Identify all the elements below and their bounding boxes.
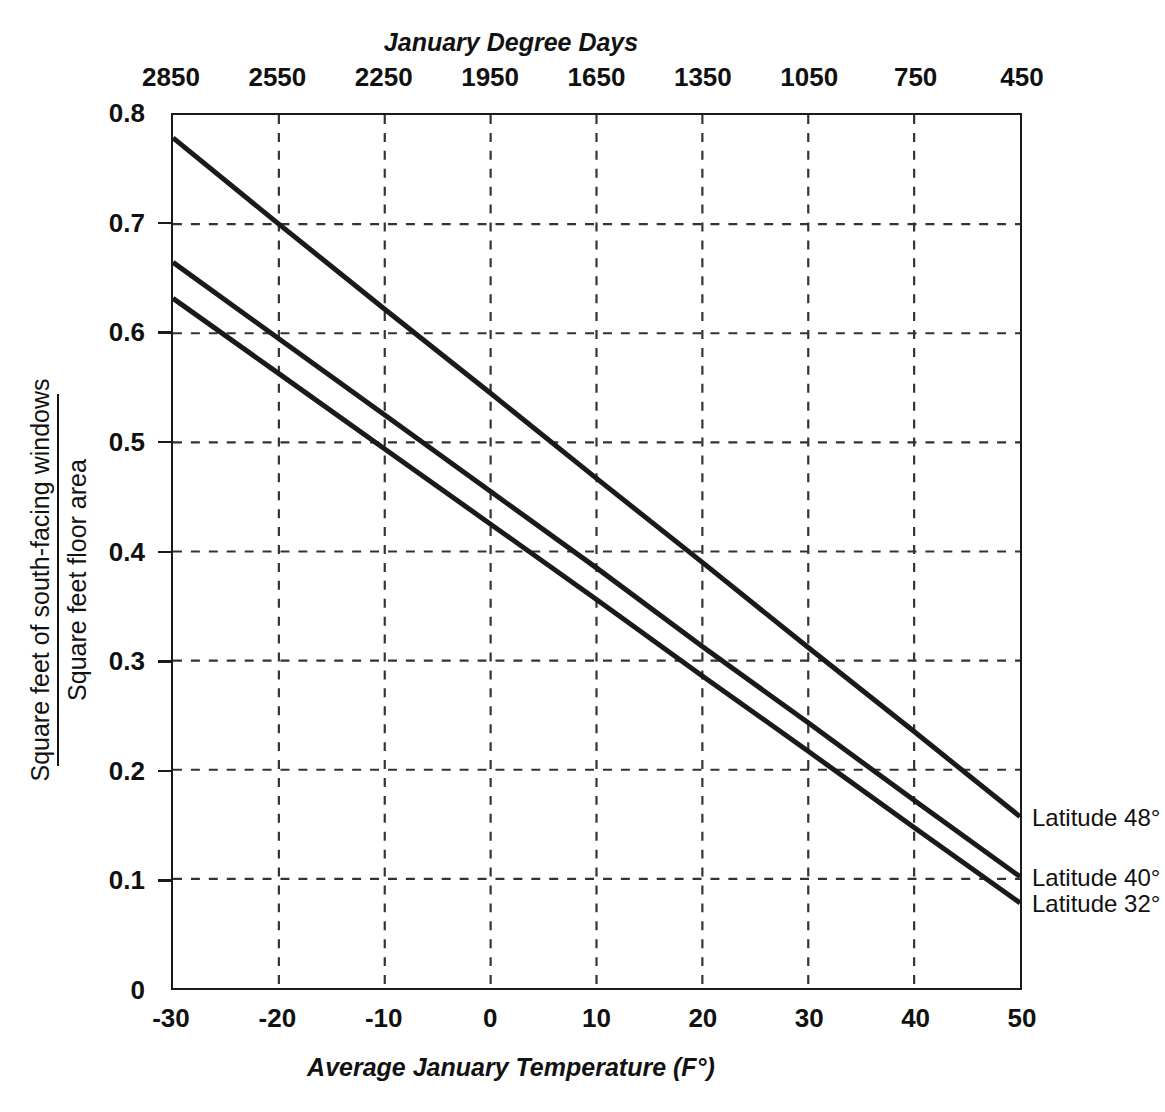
y-tick-label: 0.7	[60, 207, 145, 238]
y-axis-title: Square feet of south-facing windows Squa…	[23, 200, 93, 960]
y-tick-label: 0	[60, 975, 145, 1006]
bottom-axis-title: Average January Temperature (F°)	[0, 1053, 1022, 1082]
bottom-x-tick-label: 10	[582, 1003, 611, 1034]
series-label-48: Latitude 48°	[1032, 804, 1160, 832]
bottom-x-tick-label: 50	[1008, 1003, 1037, 1034]
y-tick-mark	[158, 660, 171, 663]
top-x-tick-label: 1950	[461, 62, 519, 93]
bottom-x-tick-label: 40	[901, 1003, 930, 1034]
fraction-bar-icon	[57, 394, 59, 766]
y-tick-label: 0.6	[60, 317, 145, 348]
top-x-tick-label: 750	[894, 62, 937, 93]
top-x-tick-label: 1650	[568, 62, 626, 93]
y-tick-label: 0.1	[60, 865, 145, 896]
top-x-tick-label: 2850	[142, 62, 200, 93]
top-x-tick-label: 2250	[355, 62, 413, 93]
bottom-x-tick-label: 20	[688, 1003, 717, 1034]
series-label-32: Latitude 32°	[1032, 890, 1160, 918]
series-lines	[173, 115, 1020, 988]
y-tick-mark	[158, 441, 171, 444]
bottom-x-tick-label: -30	[152, 1003, 190, 1034]
y-tick-mark	[158, 331, 171, 334]
series-label-40: Latitude 40°	[1032, 864, 1160, 892]
top-x-tick-label: 1050	[780, 62, 838, 93]
y-tick-mark	[158, 879, 171, 882]
y-tick-label: 0.8	[60, 98, 145, 129]
y-tick-label: 0.4	[60, 536, 145, 567]
y-tick-label: 0.5	[60, 426, 145, 457]
bottom-x-tick-label: 0	[483, 1003, 497, 1034]
y-tick-mark	[158, 770, 171, 773]
top-x-tick-label: 1350	[674, 62, 732, 93]
chart-page: January Degree Days Square feet of south…	[0, 0, 1165, 1112]
bottom-x-tick-label: -10	[365, 1003, 403, 1034]
y-tick-label: 0.2	[60, 755, 145, 786]
top-x-tick-label: 2550	[248, 62, 306, 93]
plot-area	[171, 113, 1022, 990]
y-axis-title-numerator: Square feet of south-facing windows	[25, 379, 55, 782]
bottom-x-tick-label: -20	[259, 1003, 297, 1034]
y-tick-label: 0.3	[60, 646, 145, 677]
top-axis-title: January Degree Days	[0, 28, 1022, 57]
bottom-x-tick-label: 30	[795, 1003, 824, 1034]
y-tick-mark	[158, 551, 171, 554]
top-x-tick-label: 450	[1000, 62, 1043, 93]
y-tick-mark	[158, 222, 171, 225]
